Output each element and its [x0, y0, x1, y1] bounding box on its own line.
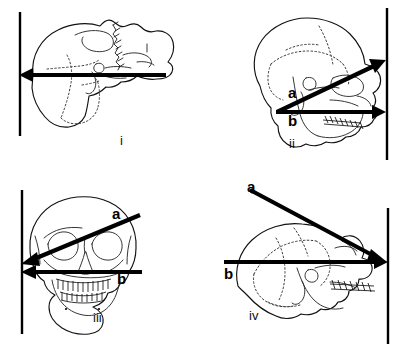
- temporal-line-dotted: [319, 26, 333, 65]
- mental-foramen-left: [65, 308, 67, 310]
- axis-a-line: [34, 215, 140, 259]
- upper-teeth: [56, 279, 111, 292]
- panel-caption-iv: iv: [249, 309, 258, 322]
- temporal-fossa-line: [75, 31, 113, 52]
- parietal-dotted: [294, 228, 308, 256]
- lower-teeth: [60, 292, 106, 303]
- supraorbital-ridge: [44, 227, 82, 238]
- panel-caption-iii: iii: [93, 311, 102, 324]
- endocranial-dotted-c: [268, 64, 283, 100]
- parietal-dotted: [286, 44, 319, 50]
- axis-b-arrowhead: [21, 265, 36, 279]
- panel-caption-i: i: [120, 134, 123, 147]
- panel-i: i: [0, 0, 202, 176]
- mastoid-process: [292, 281, 305, 304]
- orbit-right: [92, 232, 122, 260]
- endocranial-dotted-c: [253, 274, 293, 307]
- zygomatic-arch: [105, 67, 131, 69]
- panel-iii-drawing: [0, 176, 202, 352]
- axis-label-a: a: [247, 179, 255, 194]
- maxilla-outline: [330, 100, 358, 106]
- palate-dotted-line: [82, 81, 99, 85]
- panel-i-drawing: [0, 0, 202, 176]
- axis-b-arrowhead: [372, 105, 386, 119]
- sphenoid-dotted-line: [61, 55, 72, 118]
- axis-label-a: a: [288, 85, 296, 100]
- endocranial-dotted-outline: [47, 60, 99, 69]
- axis-label-b: b: [117, 271, 126, 286]
- mandible-dotted-line: [90, 74, 100, 107]
- endocranial-dotted-a: [271, 51, 343, 64]
- panel-ii-drawing: [202, 0, 404, 176]
- cranium-outline: [254, 18, 380, 147]
- panel-iv: a b iv: [202, 176, 404, 352]
- axis-label-b: b: [288, 113, 297, 128]
- panel-iii: a b iii: [0, 176, 202, 352]
- nasal-region: [357, 96, 371, 106]
- external-auditory-meatus: [303, 77, 316, 90]
- panel-ii: a b ii: [202, 0, 404, 176]
- external-auditory-meatus: [305, 269, 318, 282]
- panel-iv-drawing: [202, 176, 404, 352]
- temporal-line-right: [127, 236, 131, 264]
- orbital-margin: [123, 53, 151, 67]
- external-auditory-meatus: [94, 63, 104, 73]
- mandible-ramus: [297, 268, 343, 309]
- panel-caption-ii: ii: [289, 137, 295, 150]
- sphenoid-dotted: [276, 238, 285, 300]
- axis-a-line: [252, 191, 374, 256]
- axis-label-a: a: [112, 206, 120, 221]
- figure-root: i: [0, 0, 404, 352]
- ramus-dotted-line: [61, 107, 98, 124]
- cranium-outline: [237, 224, 372, 319]
- axis-label-b: b: [224, 266, 233, 281]
